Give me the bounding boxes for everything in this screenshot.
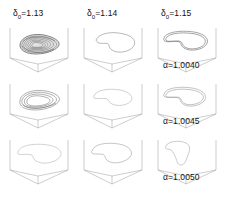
attractor-r1-c2 [164,87,206,106]
phase-box-r2-c2 [150,136,224,192]
phase-box-r1-c1 [76,80,150,136]
phase-box-r0-c1 [76,24,150,80]
panel-r0-c2 [150,24,224,80]
attractor-r0-c2 [164,31,208,50]
phase-box-r1-c2 [150,80,224,136]
box-frame-r2-c1 [84,140,142,184]
phase-box-r1-c0 [2,80,76,136]
row-label-alpha-1-0045: α=1.0045 [163,116,200,126]
attractor-r2-c2 [165,141,189,165]
row-label-alpha-1-0050: α=1.0050 [163,172,200,182]
box-frame-r0-c1 [84,28,142,72]
attractor-r0-c1 [96,33,135,52]
column-header-row: δ0=1.13 δ0=1.14 δ0=1.15 [0,0,230,26]
panel-r0-c0 [2,24,76,80]
panel-r0-c1 [76,24,150,80]
attractor-r2-c1 [92,143,132,163]
panel-r1-c0 [2,80,76,136]
phase-box-r2-c1 [76,136,150,192]
figure-panel-grid: δ0=1.13 δ0=1.14 δ0=1.15 [0,0,230,203]
phase-box-r2-c0 [2,136,76,192]
panel-r1-c1 [76,80,150,136]
row-label-alpha-1-0040: α=1.0040 [163,60,200,70]
column-header-delta-1-13: δ0=1.13 [13,8,43,18]
panel-r2-c0 [2,136,76,192]
attractor-r2-c0 [18,144,61,163]
column-header-delta-1-15: δ0=1.15 [161,8,191,18]
panel-r1-c2 [150,80,224,136]
column-header-value-2: =1.15 [169,8,191,18]
box-frame-r2-c0 [10,140,68,184]
panel-r2-c1 [76,136,150,192]
phase-box-r0-c2 [150,24,224,80]
column-header-value-0: =1.13 [21,8,43,18]
box-frame-r1-c1 [84,84,142,128]
attractor-r1-c0 [20,90,60,110]
attractor-r1-c1 [94,89,132,105]
panel-r2-c2 [150,136,224,192]
column-header-delta-1-14: δ0=1.14 [87,8,117,18]
phase-box-r0-c0 [2,24,76,80]
column-header-value-1: =1.14 [95,8,117,18]
